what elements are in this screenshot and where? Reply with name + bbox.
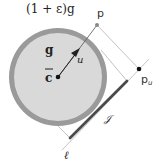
label-p-u-sub: u	[148, 79, 153, 87]
diagram-canvas: (1 + ε)g g c u p pu 𝒥 ℓ	[0, 0, 161, 161]
label-p-u-base: p	[141, 73, 148, 86]
label-center: c	[45, 71, 52, 85]
label-line-ell: ℓ	[64, 149, 69, 161]
label-direction-u: u	[77, 54, 83, 65]
point-p-u	[137, 67, 142, 72]
label-p-u: pu	[141, 73, 153, 87]
label-inner-circle: g	[45, 43, 54, 57]
point-p	[95, 23, 99, 27]
center-point	[56, 75, 61, 80]
label-outer-circle: (1 + ε)g	[26, 2, 75, 16]
label-segment-j: 𝒥	[103, 113, 115, 125]
label-p: p	[97, 7, 104, 20]
